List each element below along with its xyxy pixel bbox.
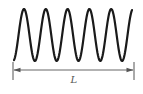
sine-wave xyxy=(14,9,132,61)
length-label: L xyxy=(71,75,78,85)
arrowhead-left-icon xyxy=(14,68,21,72)
arrowhead-right-icon xyxy=(127,68,134,72)
